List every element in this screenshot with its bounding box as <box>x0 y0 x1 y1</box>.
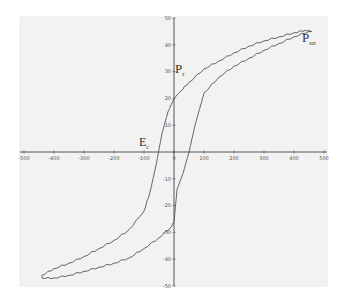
y-tick-label: -10 <box>163 176 171 182</box>
y-tick-label: 20 <box>165 95 171 101</box>
plot-area <box>20 17 327 286</box>
x-tick-label: 200 <box>229 155 239 161</box>
x-tick-label: 300 <box>259 155 269 161</box>
x-tick-label: 100 <box>199 155 209 161</box>
y-tick-label: 10 <box>165 122 171 128</box>
y-tick-label: -20 <box>163 202 171 208</box>
x-tick-label: 500 <box>319 155 329 161</box>
y-tick-label: 40 <box>165 42 171 48</box>
y-tick-label: -30 <box>163 229 171 235</box>
x-tick-label: -400 <box>48 155 59 161</box>
x-tick-label: -300 <box>78 155 89 161</box>
x-tick-label: 400 <box>289 155 299 161</box>
x-tick-label: -100 <box>138 155 149 161</box>
y-tick-label: 50 <box>165 15 171 21</box>
hysteresis-chart: -500-400-300-200-10001002003004005005040… <box>0 0 346 306</box>
x-tick-label: -200 <box>108 155 119 161</box>
y-tick-label: -50 <box>163 283 171 289</box>
y-tick-label: 30 <box>165 68 171 74</box>
x-tick-label: 0 <box>172 155 175 161</box>
y-tick-label: -40 <box>163 256 171 262</box>
x-tick-label: -500 <box>18 155 29 161</box>
